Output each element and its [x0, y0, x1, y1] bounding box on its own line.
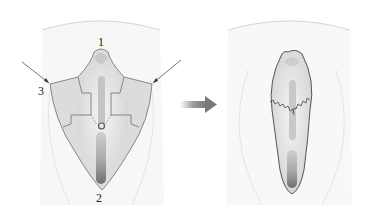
surgical-diagram: 1 2 3 — [0, 0, 371, 223]
canal-lower — [287, 150, 297, 188]
label-3: 3 — [38, 84, 44, 98]
arrow-right-icon — [180, 96, 217, 113]
panel-before: 1 2 3 — [22, 20, 181, 205]
urethral-opening — [99, 123, 105, 129]
diagram-canvas: 1 2 3 — [0, 0, 371, 223]
panel-after — [226, 20, 352, 205]
canal-lower — [96, 132, 106, 184]
label-1: 1 — [98, 35, 104, 49]
canal-upper — [98, 76, 105, 126]
label-2: 2 — [96, 191, 102, 205]
